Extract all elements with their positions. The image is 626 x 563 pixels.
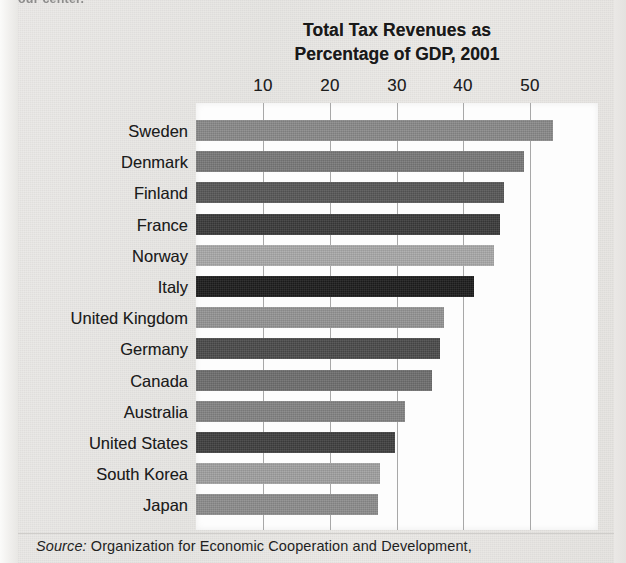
category-label-norway: Norway bbox=[0, 246, 188, 267]
category-label-finland: Finland bbox=[0, 183, 188, 204]
bar-united-kingdom bbox=[196, 307, 444, 328]
category-label-france: France bbox=[0, 215, 188, 236]
x-tick-label-50: 50 bbox=[510, 76, 550, 96]
category-label-italy: Italy bbox=[0, 277, 188, 298]
category-axis-labels: SwedenDenmarkFinlandFranceNorwayItalyUni… bbox=[0, 103, 188, 530]
chart-title-line-2: Percentage of GDP, 2001 bbox=[196, 42, 598, 66]
category-label-germany: Germany bbox=[0, 339, 188, 360]
bar-chart-figure: Total Tax Revenues as Percentage of GDP,… bbox=[0, 0, 626, 563]
category-label-united-kingdom: United Kingdom bbox=[0, 308, 188, 329]
bar-norway bbox=[196, 245, 494, 266]
category-label-south-korea: South Korea bbox=[0, 464, 188, 485]
bar-united-states bbox=[196, 432, 395, 453]
source-note: Source: Organization for Economic Cooper… bbox=[36, 538, 472, 554]
category-label-sweden: Sweden bbox=[0, 121, 188, 142]
category-label-united-states: United States bbox=[0, 433, 188, 454]
plot-area bbox=[196, 103, 598, 530]
x-tick-label-20: 20 bbox=[310, 76, 350, 96]
x-tick-label-40: 40 bbox=[443, 76, 483, 96]
gridline-50 bbox=[530, 103, 531, 530]
source-label: Source: bbox=[36, 538, 87, 554]
bar-france bbox=[196, 214, 500, 235]
category-label-australia: Australia bbox=[0, 402, 188, 423]
bar-italy bbox=[196, 276, 474, 297]
bar-south-korea bbox=[196, 463, 380, 484]
source-divider-rule bbox=[18, 533, 614, 534]
bar-germany bbox=[196, 338, 440, 359]
x-tick-label-10: 10 bbox=[243, 76, 283, 96]
x-tick-label-30: 30 bbox=[377, 76, 417, 96]
category-label-japan: Japan bbox=[0, 495, 188, 516]
bar-finland bbox=[196, 182, 504, 203]
x-axis-tick-labels: 1020304050 bbox=[0, 76, 626, 100]
chart-title: Total Tax Revenues as Percentage of GDP,… bbox=[196, 18, 598, 66]
bar-australia bbox=[196, 401, 405, 422]
category-label-denmark: Denmark bbox=[0, 152, 188, 173]
bar-sweden bbox=[196, 120, 552, 141]
category-label-canada: Canada bbox=[0, 371, 188, 392]
bar-canada bbox=[196, 370, 432, 391]
bar-denmark bbox=[196, 151, 524, 172]
bar-japan bbox=[196, 494, 378, 515]
source-text: Organization for Economic Cooperation an… bbox=[91, 538, 472, 554]
chart-title-line-1: Total Tax Revenues as bbox=[196, 18, 598, 42]
